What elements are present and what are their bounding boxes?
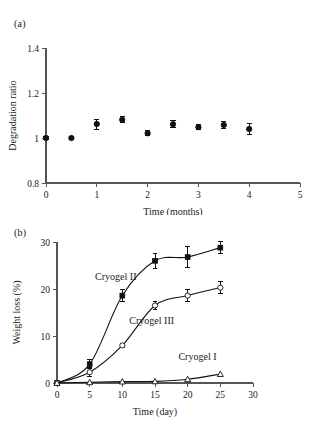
chart-b-datapoint — [217, 371, 223, 376]
chart-b-yticklabel: 30 — [41, 238, 51, 248]
chart-b-curve — [57, 288, 220, 383]
chart-b-datapoint — [218, 245, 223, 250]
chart-a-series — [43, 117, 252, 141]
chart-b-series-label: Cryogel I — [178, 351, 216, 362]
chart-a-xticklabel: 4 — [247, 190, 252, 200]
chart-a-datapoint — [247, 126, 252, 131]
chart-b-xticklabel: 30 — [248, 390, 258, 400]
chart-a-datapoint — [94, 121, 99, 126]
chart-b-xticklabel: 25 — [216, 390, 226, 400]
chart-a-yticklabel: 1.2 — [27, 89, 39, 99]
chart-b-datapoint — [120, 293, 125, 298]
chart-b-svg: 0510152025300102030Time (day)Weight loss… — [0, 215, 313, 440]
chart-b-series-label: Cryogel II — [95, 271, 136, 282]
chart-b-xticklabel: 20 — [183, 390, 193, 400]
chart-b-xticklabel: 15 — [150, 390, 160, 400]
chart-a-datapoint — [69, 135, 74, 140]
chart-b-datapoint — [87, 362, 92, 367]
chart-b-datapoint — [153, 258, 158, 263]
chart-b-xticklabel: 0 — [55, 390, 60, 400]
chart-b-yticklabel: 0 — [45, 379, 50, 389]
chart-a-datapoint — [120, 117, 125, 122]
chart-a-yticklabel: 1.4 — [27, 44, 39, 54]
chart-a-yaxis-title: Degradation ratio — [7, 80, 18, 150]
chart-b-datapoint — [185, 255, 190, 260]
chart-a-datapoint — [43, 135, 48, 140]
panel-a-label: (a) — [14, 18, 26, 29]
panel-b-weight-loss: (b) 0510152025300102030Time (day)Weight … — [0, 215, 313, 440]
chart-a-xticklabel: 3 — [196, 190, 201, 200]
figure-container: (a) 0123450.811.21.4Time (months)Degrada… — [0, 0, 313, 440]
chart-a-datapoint — [196, 125, 201, 130]
chart-a-datapoint — [170, 122, 175, 127]
chart-b-datapoint — [218, 285, 223, 290]
chart-a-xticklabel: 2 — [145, 190, 150, 200]
panel-b-label: (b) — [14, 227, 26, 238]
chart-b-datapoint — [152, 303, 157, 308]
chart-a-xticklabel: 0 — [44, 190, 49, 200]
chart-b-datapoint — [185, 293, 190, 298]
chart-a-yticklabel: 1 — [34, 134, 39, 144]
chart-b-xticklabel: 10 — [118, 390, 128, 400]
chart-b-yticklabel: 20 — [41, 285, 51, 295]
chart-b-xaxis-title: Time (day) — [133, 406, 177, 418]
chart-a-xticklabel: 5 — [298, 190, 303, 200]
chart-b-series-2 — [54, 282, 223, 386]
chart-a-svg: 0123450.811.21.4Time (months)Degradation… — [0, 0, 313, 215]
chart-b-yticklabel: 10 — [41, 332, 51, 342]
chart-a-yticklabel: 0.8 — [27, 179, 39, 189]
chart-a-xticklabel: 1 — [94, 190, 99, 200]
chart-a-xaxis-title: Time (months) — [143, 206, 202, 215]
chart-a-datapoint — [221, 122, 226, 127]
chart-b-xticklabel: 5 — [87, 390, 92, 400]
chart-b-yaxis-title: Weight loss (%) — [11, 280, 23, 344]
chart-b-series-label: Cryogel III — [129, 315, 174, 326]
chart-b-datapoint — [87, 370, 92, 375]
chart-b-datapoint — [120, 343, 125, 348]
chart-b-series-1 — [55, 242, 223, 386]
chart-a-datapoint — [145, 131, 150, 136]
panel-a-degradation-ratio: (a) 0123450.811.21.4Time (months)Degrada… — [0, 0, 313, 215]
